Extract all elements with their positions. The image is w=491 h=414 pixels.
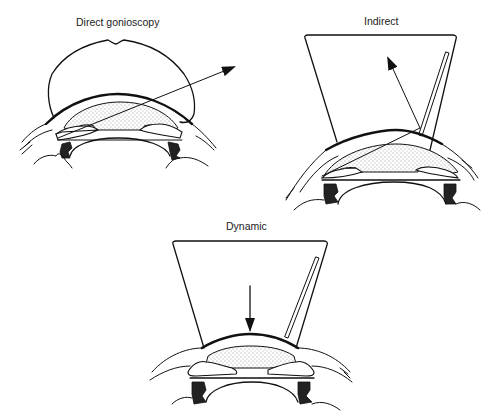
ciliary-body-right — [168, 142, 180, 160]
crystalline-lens — [70, 138, 170, 156]
gonio-mirror — [419, 52, 449, 136]
ciliary-body-left — [324, 184, 338, 204]
gonioscopy-diagram — [0, 0, 491, 414]
crystalline-lens — [206, 382, 298, 402]
light-ray-reflected — [388, 58, 420, 128]
panel-direct — [20, 40, 234, 168]
ciliary-body-right — [444, 184, 456, 204]
ciliary-body-right — [298, 382, 312, 404]
panel-dynamic — [150, 241, 352, 410]
ciliary-body-left — [192, 382, 206, 404]
crystalline-lens — [338, 182, 446, 204]
panel-indirect — [286, 35, 480, 210]
goniolens-cone — [305, 35, 457, 150]
